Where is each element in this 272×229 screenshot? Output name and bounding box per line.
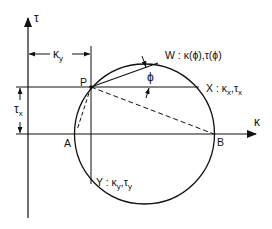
point-b-label: B bbox=[217, 136, 224, 148]
tau-axis-label: τ bbox=[34, 11, 39, 25]
dashed-line-p-b bbox=[91, 87, 214, 134]
mohr-circle-diagram: τ κ κy τx ϕ P A B W : κ(ϕ),τ(ϕ) X : κx,τ… bbox=[0, 0, 272, 229]
tx-dimension-label: τx bbox=[14, 102, 23, 118]
point-a-label: A bbox=[64, 137, 71, 149]
point-p bbox=[89, 85, 93, 89]
phi-arrow-bottom bbox=[146, 88, 149, 98]
point-p-label: P bbox=[80, 76, 87, 88]
point-x-label: X : κx,τx bbox=[206, 82, 242, 97]
phi-arrow-top bbox=[142, 56, 146, 67]
ky-dimension-label: κy bbox=[53, 47, 63, 63]
kappa-axis-label: κ bbox=[254, 115, 261, 129]
point-w-label: W : κ(ϕ),τ(ϕ) bbox=[165, 49, 222, 61]
phi-label: ϕ bbox=[147, 70, 154, 84]
